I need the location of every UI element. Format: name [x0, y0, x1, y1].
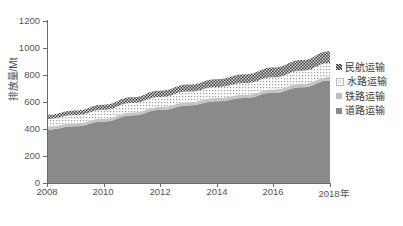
- legend-item-aviation: 民航运输: [336, 60, 403, 75]
- y-tick-600: 600: [10, 97, 40, 106]
- y-tick-400: 400: [10, 124, 40, 133]
- x-axis-tick-labels: 2008 2010 2012 2014 2016 2018年: [0, 186, 403, 202]
- legend-swatch-railway: [336, 93, 342, 99]
- y-tick-mark: [43, 156, 47, 157]
- legend-swatch-aviation: [336, 64, 342, 70]
- legend-label-railway: 铁路运输: [345, 91, 385, 102]
- legend-swatch-waterway: [336, 78, 344, 86]
- legend-item-waterway: 水路运输: [336, 75, 403, 90]
- chart-legend: 民航运输 水路运输 铁路运输 道路运输: [336, 60, 403, 118]
- chart-figure: 排放量/Mt 1200 1000 800 600 400 200 0: [0, 0, 403, 226]
- x-tick-2010: 2010: [92, 186, 113, 197]
- x-tick-2016: 2016: [262, 186, 283, 197]
- legend-label-waterway: 水路运输: [347, 76, 387, 87]
- legend-swatch-road: [336, 108, 342, 114]
- x-axis-line: [46, 183, 331, 184]
- stacked-area-svg: [47, 21, 330, 183]
- y-tick-1200: 1200: [10, 16, 40, 25]
- y-tick-800: 800: [10, 70, 40, 79]
- y-tick-mark: [43, 75, 47, 76]
- y-tick-200: 200: [10, 151, 40, 160]
- plot-area: [47, 21, 330, 183]
- legend-item-railway: 铁路运输: [336, 89, 403, 104]
- legend-label-road: 道路运输: [345, 105, 385, 116]
- y-tick-mark: [43, 48, 47, 49]
- x-tick-2012: 2012: [149, 186, 170, 197]
- y-tick-1000: 1000: [10, 43, 40, 52]
- x-tick-2014: 2014: [206, 186, 227, 197]
- legend-item-road: 道路运输: [336, 104, 403, 119]
- y-tick-mark: [43, 129, 47, 130]
- y-tick-mark: [43, 102, 47, 103]
- x-tick-2018: 2018年: [318, 186, 349, 200]
- legend-label-aviation: 民航运输: [345, 62, 385, 73]
- x-tick-2008: 2008: [36, 186, 57, 197]
- y-tick-mark: [43, 21, 47, 22]
